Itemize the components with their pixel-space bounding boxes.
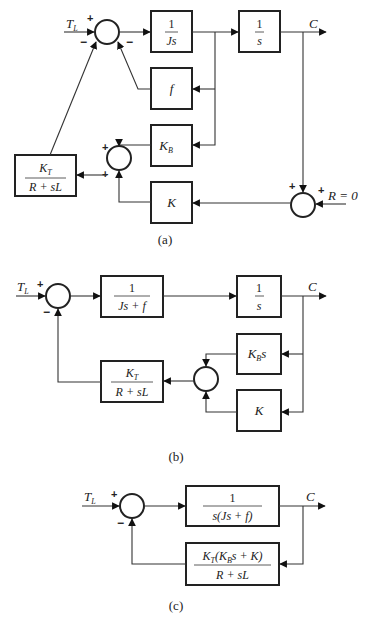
block-inertia-numerator: 1: [169, 17, 175, 31]
block-motor-denominator: R + sL: [28, 180, 62, 194]
block-feedback-denominator: R + sL: [215, 568, 249, 582]
sign-minus: −: [80, 35, 87, 49]
summing-junction-3: [291, 193, 315, 217]
connector-motor-to-sum1: [50, 42, 96, 155]
sign-plus: +: [318, 184, 324, 196]
sign-minus: −: [126, 35, 133, 49]
block-diagram-figure: TL + − − 1 Js 1 s C f KB: [0, 0, 368, 623]
input-label-tl: TL: [84, 489, 96, 506]
sign-minus: −: [43, 305, 50, 319]
block-forward-denominator: Js + f: [118, 299, 147, 313]
summing-junction-2: [107, 146, 131, 170]
block-gain-label: K: [166, 195, 177, 210]
diagram-c: TL + − 1 s(Js + f) C KT(KBs + K) R + sL …: [82, 486, 325, 613]
diagram-a: TL + − − 1 Js 1 s C f KB: [15, 11, 358, 247]
connector-k-to-sum2: [119, 171, 151, 202]
block-forward-numerator: 1: [230, 491, 236, 505]
block-integrator-denominator: s: [257, 34, 262, 48]
connector-feedback-to-sum1: [132, 519, 186, 564]
sign-minus: −: [117, 516, 124, 530]
sign-plus: +: [102, 141, 108, 153]
block-integrator-denominator: s: [257, 299, 262, 313]
caption-c: (c): [169, 598, 183, 613]
caption-a: (a): [158, 232, 172, 247]
sign-plus: +: [37, 278, 43, 290]
input-label-tl: TL: [66, 16, 78, 33]
block-gain-label: K: [254, 403, 265, 418]
block-inertia-denominator: Js: [167, 34, 177, 48]
block-integrator-numerator: 1: [256, 281, 262, 295]
summing-junction-1: [120, 494, 144, 518]
connector-k-to-sum2: [206, 392, 237, 412]
output-label-c: C: [308, 279, 317, 294]
sign-plus: +: [87, 12, 93, 24]
caption-b: (b): [168, 449, 183, 464]
connector-c-to-feedback: [280, 506, 303, 564]
sign-plus: +: [111, 488, 117, 500]
reference-label: R = 0: [327, 188, 358, 203]
sign-plus: +: [102, 168, 108, 180]
block-forward-numerator: 1: [129, 281, 135, 295]
block-integrator-numerator: 1: [257, 17, 263, 31]
output-label-c: C: [309, 16, 318, 31]
diagram-b: TL + − 1 Js + f 1 s C KBs K KT R + sL: [16, 276, 326, 464]
block-forward-denominator: s(Js + f): [212, 509, 252, 523]
output-label-c: C: [306, 489, 315, 504]
summing-junction-2: [194, 367, 218, 391]
sign-plus: +: [289, 180, 295, 192]
connector-motor-to-sum1: [58, 309, 101, 382]
connector: [119, 145, 151, 146]
input-label-tl: TL: [17, 279, 29, 296]
summing-junction-1: [95, 20, 119, 44]
connector-f-to-sum1: [118, 42, 151, 89]
connector-kbs-to-sum2: [206, 354, 237, 366]
block-motor-denominator: R + sL: [115, 385, 149, 399]
